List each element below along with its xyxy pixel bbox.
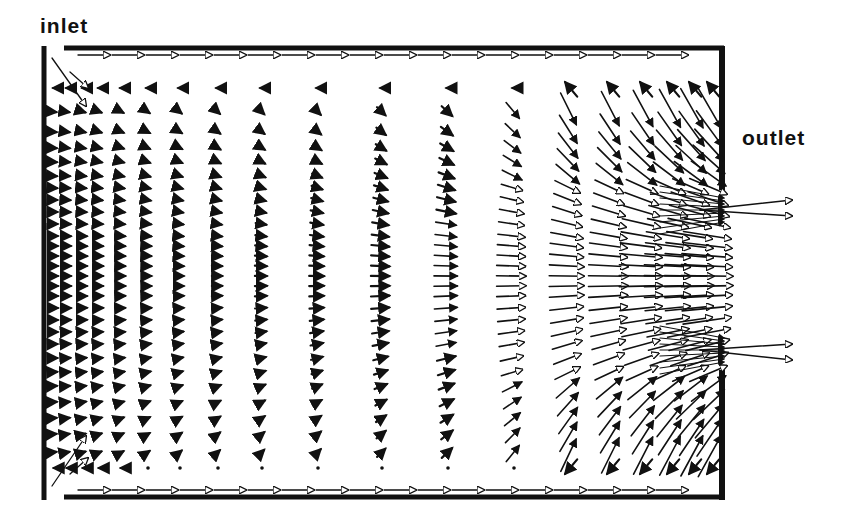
velocity-vector bbox=[441, 415, 454, 423]
velocity-vector bbox=[213, 211, 222, 213]
velocity-vector bbox=[258, 416, 264, 420]
velocity-vector bbox=[145, 175, 151, 177]
velocity-vector bbox=[255, 308, 267, 309]
velocity-vector bbox=[497, 307, 525, 309]
velocity-vector bbox=[118, 320, 125, 321]
velocity-vectors bbox=[51, 55, 792, 490]
velocity-vector bbox=[372, 331, 389, 334]
velocity-vector bbox=[177, 417, 182, 420]
velocity-vector bbox=[215, 433, 220, 437]
velocity-vector bbox=[594, 354, 625, 365]
velocity-vector bbox=[66, 452, 69, 453]
velocity-vector bbox=[98, 434, 102, 435]
velocity-vector bbox=[176, 385, 182, 387]
velocity-vector bbox=[506, 446, 519, 462]
velocity-vector bbox=[258, 401, 265, 405]
velocity-vector bbox=[96, 344, 102, 345]
velocity-vector bbox=[500, 209, 524, 214]
velocity-vector bbox=[144, 211, 151, 212]
velocity-vector bbox=[549, 265, 583, 267]
velocity-vector bbox=[120, 451, 124, 453]
velocity-vector bbox=[373, 357, 388, 361]
velocity-vector bbox=[258, 129, 264, 134]
velocity-vector bbox=[97, 386, 102, 387]
velocity-vector bbox=[313, 145, 321, 150]
velocity-vector bbox=[625, 193, 659, 205]
velocity-vector bbox=[554, 194, 581, 205]
velocity-vector bbox=[598, 392, 621, 417]
velocity-vector bbox=[501, 370, 522, 376]
velocity-vector bbox=[372, 235, 389, 237]
velocity-vector bbox=[371, 308, 389, 309]
velocity-vector bbox=[310, 331, 323, 333]
velocity-vector bbox=[658, 112, 681, 145]
velocity-vector bbox=[97, 200, 103, 201]
velocity-vector bbox=[312, 186, 323, 190]
velocity-vector bbox=[497, 296, 526, 297]
velocity-vector bbox=[314, 432, 321, 438]
velocity-vector bbox=[506, 428, 520, 442]
velocity-vector bbox=[436, 210, 455, 214]
velocity-vector bbox=[177, 130, 182, 133]
velocity-vector bbox=[503, 155, 521, 166]
velocity-vector bbox=[375, 159, 386, 165]
velocity-vector bbox=[177, 161, 183, 163]
velocity-vector bbox=[82, 148, 86, 149]
velocity-vector bbox=[176, 199, 183, 201]
velocity-vector bbox=[66, 434, 70, 435]
velocity-vector bbox=[82, 418, 86, 419]
velocity-vector bbox=[144, 224, 151, 225]
velocity-vector bbox=[498, 319, 525, 322]
velocity-vector bbox=[316, 466, 320, 470]
velocity-vector bbox=[707, 82, 719, 96]
velocity-vector bbox=[119, 147, 123, 149]
velocity-vector bbox=[551, 318, 583, 323]
velocity-vector bbox=[212, 256, 222, 257]
velocity-vector bbox=[70, 72, 88, 88]
velocity-vector bbox=[256, 331, 267, 333]
velocity-vector bbox=[596, 163, 622, 184]
velocity-vector bbox=[215, 110, 220, 114]
velocity-vector bbox=[257, 385, 265, 388]
velocity-vector bbox=[215, 130, 220, 134]
velocity-vector bbox=[118, 224, 125, 225]
velocity-vector bbox=[695, 405, 723, 438]
velocity-vector bbox=[371, 255, 389, 256]
velocity-vector bbox=[258, 146, 265, 150]
velocity-vector bbox=[97, 358, 103, 359]
velocity-vector bbox=[143, 246, 151, 247]
velocity-vector bbox=[440, 144, 453, 152]
velocity-vector bbox=[500, 197, 523, 202]
velocity-vector bbox=[629, 147, 655, 172]
velocity-vector bbox=[118, 358, 124, 359]
velocity-vector bbox=[442, 448, 452, 458]
velocity-vector bbox=[309, 255, 323, 256]
velocity-vector bbox=[593, 206, 626, 216]
velocity-vector bbox=[256, 223, 267, 225]
velocity-vector bbox=[439, 384, 455, 390]
velocity-vector bbox=[660, 353, 724, 356]
velocity-vector bbox=[439, 172, 455, 178]
velocity-vector bbox=[314, 129, 321, 135]
velocity-vector bbox=[435, 235, 457, 238]
velocity-vector bbox=[551, 329, 582, 336]
velocity-vector bbox=[256, 343, 266, 345]
velocity-vector bbox=[561, 439, 576, 471]
velocity-vector bbox=[98, 131, 102, 132]
velocity-vector bbox=[216, 466, 220, 470]
velocity-vector bbox=[434, 307, 457, 309]
velocity-vector bbox=[607, 82, 619, 96]
velocity-vector bbox=[631, 131, 655, 159]
velocity-vector bbox=[376, 128, 385, 135]
velocity-vector bbox=[707, 459, 719, 473]
velocity-vector bbox=[497, 265, 526, 266]
velocity-vector bbox=[555, 367, 580, 379]
velocity-vector bbox=[81, 386, 86, 387]
velocity-vector bbox=[434, 296, 457, 297]
velocity-vector bbox=[118, 344, 125, 345]
velocity-vector bbox=[82, 132, 86, 133]
velocity-vector bbox=[632, 421, 653, 454]
velocity-vector bbox=[214, 401, 220, 404]
velocity-vector bbox=[657, 406, 682, 437]
velocity-vector bbox=[314, 449, 321, 456]
